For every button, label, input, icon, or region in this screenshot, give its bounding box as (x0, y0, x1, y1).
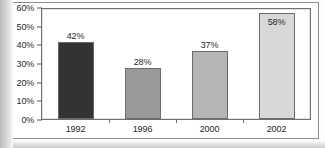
y-axis-tick-label: 60% (17, 3, 34, 13)
page-edge-shadow-bottom (0, 141, 325, 148)
x-axis-tick-mark (109, 119, 110, 123)
bar-value-label: 42% (67, 31, 84, 41)
y-axis-tick-label: 50% (17, 22, 34, 32)
x-axis-tick-mark (243, 119, 244, 123)
x-axis-ticks (42, 119, 310, 123)
bars-container: 42%28%37%58% (42, 9, 310, 119)
x-axis: 1992199620002002 (42, 124, 310, 138)
y-axis-tick-mark (37, 26, 42, 27)
y-axis-tick-label: 0% (21, 115, 34, 125)
page-edge-shadow-left (0, 0, 13, 148)
y-axis-tick-label: 10% (17, 96, 34, 106)
bar-value-label: 37% (201, 40, 218, 50)
scanned-page: · · · · 60%50%40%30%20%10%0% 42%28%37%58… (0, 0, 325, 148)
bar-value-label: 28% (134, 57, 151, 67)
bar-1992[interactable]: 42% (58, 42, 94, 119)
bar-slot: 42% (42, 9, 109, 119)
y-axis-tick-mark (37, 64, 42, 65)
x-axis-label-1992: 1992 (42, 124, 109, 134)
y-axis-tick-label: 40% (17, 40, 34, 50)
y-axis-tick-label: 20% (17, 78, 34, 88)
bar-2002[interactable]: 58% (259, 13, 295, 119)
x-axis-label-1996: 1996 (109, 124, 176, 134)
x-axis-label-2000: 2000 (176, 124, 243, 134)
bar-1996[interactable]: 28% (125, 68, 161, 119)
x-axis-tick-mark (176, 119, 177, 123)
y-axis-tick-mark (37, 8, 42, 9)
bar-slot: 58% (243, 9, 310, 119)
y-axis-tick-mark (37, 120, 42, 121)
x-axis-label-2002: 2002 (243, 124, 310, 134)
y-axis-tick-label: 30% (17, 59, 34, 69)
bar-2000[interactable]: 37% (192, 51, 228, 119)
bar-chart: 60%50%40%30%20%10%0% 42%28%37%58% 199219… (3, 2, 319, 139)
y-axis-tick-mark (37, 45, 42, 46)
bar-slot: 28% (109, 9, 176, 119)
y-axis-tick-mark (37, 82, 42, 83)
y-axis-tick-mark (37, 101, 42, 102)
bar-slot: 37% (176, 9, 243, 119)
bar-value-label: 58% (268, 17, 285, 27)
